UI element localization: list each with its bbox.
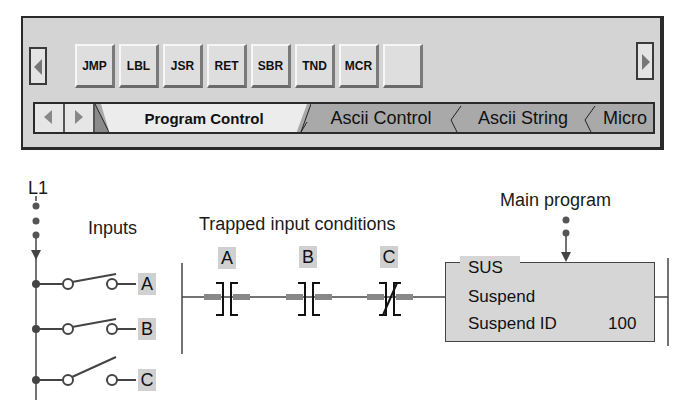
- rail-label-l1: L1: [28, 178, 48, 199]
- contact-a-label: A: [218, 247, 236, 269]
- trapped-conditions-label: Trapped input conditions: [199, 214, 395, 235]
- suspend-id-value: 100: [608, 314, 636, 334]
- contact-c-symbol: [367, 283, 413, 315]
- instruction-mnemonic: SUS: [468, 258, 503, 278]
- input-a-label: A: [138, 273, 156, 295]
- main-program-label: Main program: [500, 190, 611, 211]
- input-c-label: C: [138, 369, 156, 391]
- contact-c-label: C: [380, 246, 398, 268]
- input-b-label: B: [138, 318, 156, 340]
- instruction-description: Suspend: [468, 287, 535, 307]
- arrow-down-icon: [561, 252, 571, 262]
- contact-b-symbol: [286, 283, 332, 315]
- contact-b-label: B: [299, 246, 317, 268]
- l1-feed: [33, 203, 40, 239]
- inputs-label: Inputs: [88, 218, 137, 239]
- contact-a-symbol: [204, 283, 250, 315]
- suspend-id-label: Suspend ID: [468, 314, 557, 334]
- arrow-down-icon: [31, 250, 41, 260]
- main-program-feed: [563, 217, 570, 237]
